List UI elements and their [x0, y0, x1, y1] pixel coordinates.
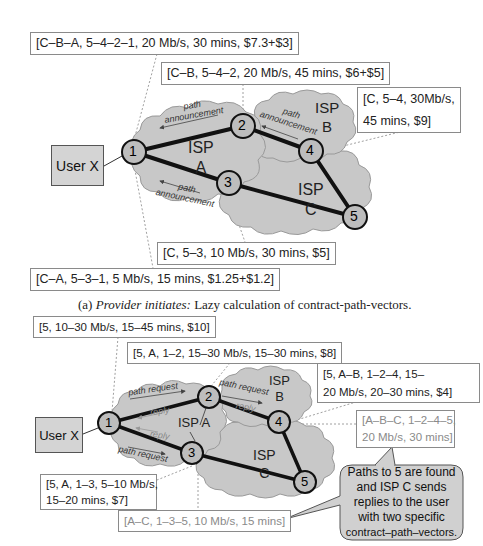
- top-user-x: User X: [51, 145, 104, 186]
- top-node-3-label: 3: [224, 174, 232, 190]
- callout-text: Paths to 5 are found and ISP C sends rep…: [340, 465, 463, 540]
- top-label-c54: [C, 5–4, 30Mb/s, 45 mins, $9]: [357, 87, 461, 133]
- figure-caption-a: (a) Provider initiates: Lazy calculation…: [78, 297, 411, 313]
- top-node-2-label: 2: [238, 117, 246, 133]
- top-label-c53: [C, 5–3, 10 Mb/s, 30 mins, $5]: [157, 242, 336, 265]
- bottom-user-link: [83, 428, 98, 434]
- bottom-label-abc-1245: [A–B–C, 1–2–4–5, 20 Mb/s, 30 mins]: [356, 410, 455, 448]
- top-user-x-label: User X: [56, 158, 99, 174]
- bottom-node-2-label: 2: [205, 389, 212, 404]
- top-isp-c-label: ISP C: [298, 180, 324, 220]
- top-node-4-label: 4: [306, 142, 314, 158]
- bottom-label-5-a-12: [5, A, 1–2, 15–30 Mb/s, 15–30 mins, $8]: [127, 342, 342, 364]
- bottom-node-4-label: 4: [275, 414, 282, 429]
- bottom-label-ac-135: [A–C, 1–3–5, 10 Mb/s, 15 mins]: [118, 510, 291, 532]
- top-node-1-label: 1: [129, 143, 137, 159]
- bottom-isp-c-label: ISP C: [253, 446, 276, 482]
- bottom-user-x-label: User X: [39, 428, 79, 443]
- top-user-link: [104, 156, 122, 166]
- top-node-5-label: 5: [350, 208, 358, 224]
- bottom-node-1-label: 1: [105, 415, 112, 430]
- bottom-node-3-label: 3: [188, 445, 195, 460]
- top-label-ca: [C–A, 5–3–1, 5 Mb/s, 15 mins, $1.25+$1.2…: [30, 268, 280, 291]
- top-label-cba: [C–B–A, 5–4–2–1, 20 Mb/s, 30 mins, $7.3+…: [30, 32, 299, 55]
- bottom-label-5: [5, 10–30 Mb/s, 15–45 mins, $10]: [33, 316, 216, 338]
- bottom-isp-b-label: ISP B: [269, 373, 290, 405]
- bottom-label-5-ab-124: [5, A–B, 1–2–4, 15– 20 Mb/s, 20–30 mins,…: [317, 363, 480, 403]
- bottom-user-x: User X: [35, 417, 83, 453]
- top-label-cb: [C–B, 5–4–2, 20 Mb/s, 45 mins, $6+$5]: [161, 62, 390, 85]
- bottom-node-5-label: 5: [301, 474, 308, 489]
- top-isp-a-label: ISP A: [188, 138, 214, 178]
- bottom-label-5-a-13: [5, A, 1–3, 5–10 Mb/s, 15–20 mins, $7]: [40, 474, 157, 510]
- callout-pointer-up: [375, 447, 395, 465]
- bottom-isp-a-label: ISP A: [178, 415, 210, 430]
